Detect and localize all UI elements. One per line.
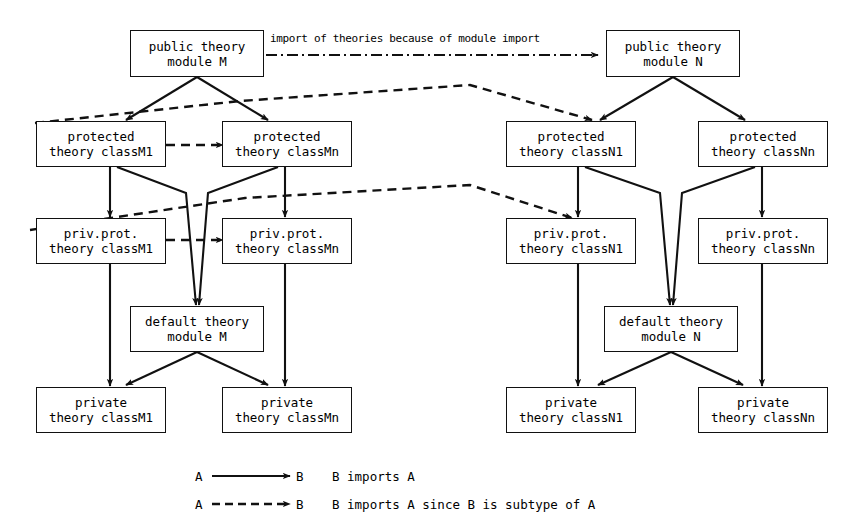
legend-row2-text: B imports A since B is subtype of A: [332, 497, 595, 512]
legend-row2-target-label: B: [296, 497, 304, 512]
legend-row2-source-label: A: [195, 497, 203, 512]
legend-row1-target-label: B: [296, 469, 304, 484]
legend-row1-source-label: A: [195, 469, 203, 484]
legend-row1-text: B imports A: [332, 469, 415, 484]
diagram-canvas: public theory module M public theory mod…: [0, 0, 865, 532]
legend: A B B imports A A B B imports A since B …: [0, 0, 865, 532]
